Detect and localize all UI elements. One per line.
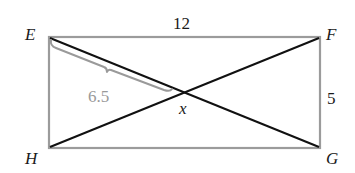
intersection-variable: x: [179, 100, 187, 117]
length-brace: [51, 40, 172, 91]
vertex-label-h: H: [25, 150, 37, 167]
right-side-length: 5: [327, 90, 336, 107]
vertex-label-e: E: [25, 26, 35, 43]
brace-length-label: 6.5: [88, 88, 109, 105]
vertex-label-f: F: [326, 26, 336, 43]
top-side-length: 12: [173, 15, 190, 32]
vertex-label-g: G: [326, 150, 338, 167]
